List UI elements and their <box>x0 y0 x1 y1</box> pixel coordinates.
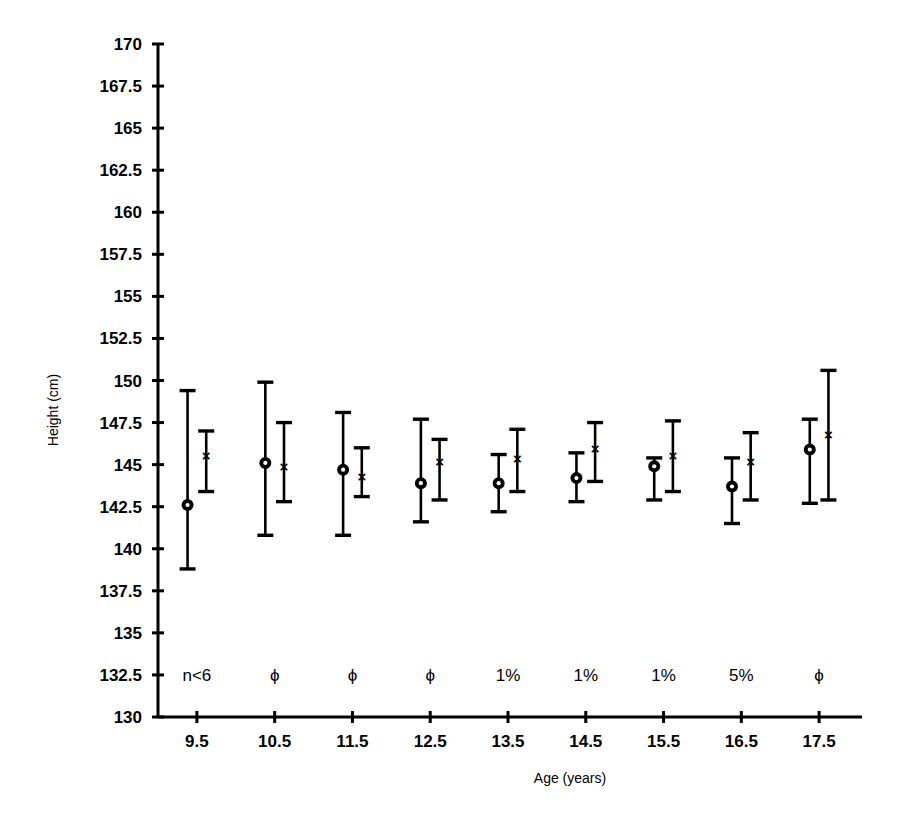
data-point-group: × <box>743 433 759 500</box>
y-tick-label: 157.5 <box>99 245 142 264</box>
circle-marker-center <box>185 503 189 507</box>
x-tick-label: 16.5 <box>725 732 758 751</box>
data-point-group <box>802 419 818 503</box>
x-tick-label: 15.5 <box>647 732 680 751</box>
y-axis-title: Height (cm) <box>45 374 61 446</box>
x-tick-label: 11.5 <box>336 732 368 751</box>
y-tick-label: 135 <box>114 624 142 643</box>
x-marker: × <box>746 453 755 470</box>
data-point-group: × <box>587 423 603 482</box>
x-tick-label: 13.5 <box>491 732 524 751</box>
group-annotation: 5% <box>729 666 754 685</box>
data-point-group <box>257 382 273 535</box>
circle-marker-center <box>341 468 345 472</box>
y-axis-tick-labels: 170167.5165162.5160157.5155152.5150147.5… <box>99 35 142 727</box>
scatter-plot-svg: 170167.5165162.5160157.5155152.5150147.5… <box>0 0 901 825</box>
x-tick-label: 14.5 <box>569 732 602 751</box>
y-tick-label: 170 <box>114 35 142 54</box>
circle-marker-center <box>574 476 578 480</box>
chart-container: 170167.5165162.5160157.5155152.5150147.5… <box>0 0 901 825</box>
x-marker: × <box>513 450 522 467</box>
group-annotation: n<6 <box>182 666 211 685</box>
data-point-group: × <box>820 370 836 500</box>
x-tick-label: 9.5 <box>185 732 209 751</box>
y-tick-label: 140 <box>114 540 142 559</box>
group-annotation: ϕ <box>814 666 824 685</box>
group-annotation: ϕ <box>425 666 435 685</box>
x-marker: × <box>435 453 444 470</box>
y-tick-label: 167.5 <box>99 77 142 96</box>
data-point-group: × <box>354 448 370 497</box>
data-point-group <box>724 458 740 524</box>
x-tick-label: 12.5 <box>414 732 447 751</box>
y-tick-label: 150 <box>114 372 142 391</box>
circle-marker-center <box>652 464 656 468</box>
y-tick-label: 142.5 <box>99 498 142 517</box>
data-point-group: × <box>509 429 525 491</box>
y-tick-label: 165 <box>114 119 142 138</box>
group-annotation: 1% <box>651 666 676 685</box>
x-marker: × <box>591 440 600 457</box>
data-point-group <box>180 391 196 569</box>
group-annotation: 1% <box>573 666 598 685</box>
data-markers: ××××××××× <box>180 370 837 569</box>
data-point-group: × <box>432 439 448 500</box>
y-tick-label: 132.5 <box>99 666 142 685</box>
data-point-group <box>646 458 662 500</box>
x-tick-label: 10.5 <box>258 732 291 751</box>
data-point-group <box>491 455 507 512</box>
circle-marker-center <box>497 481 501 485</box>
circle-marker-center <box>808 447 812 451</box>
y-tick-label: 155 <box>114 287 142 306</box>
y-tick-label: 152.5 <box>99 329 142 348</box>
x-marker: × <box>669 447 678 464</box>
y-tick-label: 147.5 <box>99 414 142 433</box>
data-point-group <box>568 453 584 502</box>
group-annotation: 1% <box>496 666 521 685</box>
data-point-group <box>335 412 351 535</box>
x-marker: × <box>824 426 833 443</box>
x-marker: × <box>280 458 289 475</box>
group-annotation: ϕ <box>270 666 280 685</box>
data-point-group: × <box>198 431 214 492</box>
circle-marker-center <box>419 481 423 485</box>
y-tick-label: 137.5 <box>99 582 142 601</box>
x-marker: × <box>202 447 211 464</box>
y-tick-label: 160 <box>114 203 142 222</box>
x-axis-tick-labels: 9.510.511.512.513.514.515.516.517.5 <box>185 732 836 751</box>
circle-marker-center <box>263 461 267 465</box>
group-annotations: n<6ϕϕϕ1%1%1%5%ϕ <box>182 666 823 685</box>
data-point-group: × <box>665 421 681 492</box>
circle-marker-center <box>730 484 734 488</box>
data-point-group <box>413 419 429 522</box>
x-marker: × <box>357 468 366 485</box>
y-tick-label: 162.5 <box>99 161 142 180</box>
y-tick-label: 130 <box>114 708 142 727</box>
y-tick-label: 145 <box>114 456 142 475</box>
x-axis-title: Age (years) <box>534 770 606 786</box>
group-annotation: ϕ <box>348 666 358 685</box>
x-tick-label: 17.5 <box>803 732 836 751</box>
data-point-group: × <box>276 423 292 502</box>
